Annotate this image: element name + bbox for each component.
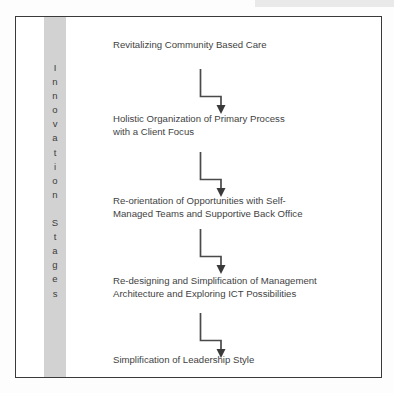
flow-arrow-3 <box>184 227 244 275</box>
flow-arrow-4 <box>184 311 244 359</box>
diagram-frame: I n n o v a t i o n S t a g e s Revitali… <box>15 16 382 378</box>
stage-label-4: Re-designing and Simplification of Manag… <box>113 275 371 300</box>
stage-label-5: Simplification of Leadership Style <box>113 354 363 367</box>
scan-edge-tint <box>255 0 394 7</box>
stage-label-2: Holistic Organization of Primary Process… <box>113 113 363 138</box>
innovation-stages-axis-band: I n n o v a t i o n S t a g e s <box>44 17 66 377</box>
stage-label-3: Re-orientation of Opportunities with Sel… <box>113 195 368 220</box>
flow-arrow-2 <box>184 150 244 198</box>
flow-arrow-1 <box>184 67 244 115</box>
stage-label-1: Revitalizing Community Based Care <box>113 39 363 52</box>
innovation-stages-axis-label: I n n o v a t i o n S t a g e s <box>44 61 66 301</box>
